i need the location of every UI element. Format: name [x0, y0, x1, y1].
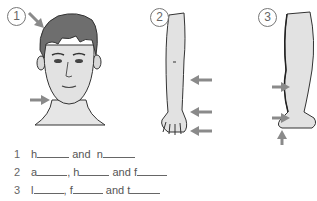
- arrow-icon: [190, 126, 212, 136]
- answer-blank[interactable]: [73, 183, 103, 194]
- answer-blank[interactable]: [37, 147, 69, 158]
- answer-blank[interactable]: [37, 165, 67, 176]
- answer-blank[interactable]: [103, 147, 135, 158]
- exercise-list: 1 h and n 2 a, h and f 3 l, f and t: [14, 145, 167, 199]
- exercise-item-2: 2 a, h and f: [14, 163, 167, 181]
- arrow-icon: [29, 13, 44, 28]
- arrow-icon: [277, 130, 287, 145]
- exercise-item-1: 1 h and n: [14, 145, 167, 163]
- answer-blank[interactable]: [79, 165, 109, 176]
- exercise-item-3: 3 l, f and t: [14, 181, 167, 199]
- head-illustration: [35, 14, 105, 125]
- answer-blank[interactable]: [137, 165, 167, 176]
- arrow-icon: [190, 107, 212, 117]
- arrow-icon: [30, 95, 50, 105]
- figure-number-2: 2: [150, 8, 169, 27]
- arrow-icon: [190, 75, 212, 85]
- figure-number-1: 1: [7, 7, 26, 26]
- arm-illustration: [162, 13, 187, 135]
- leg-illustration: [278, 12, 315, 128]
- figure-number-3: 3: [258, 8, 277, 27]
- answer-blank[interactable]: [34, 183, 64, 194]
- answer-blank[interactable]: [130, 183, 160, 194]
